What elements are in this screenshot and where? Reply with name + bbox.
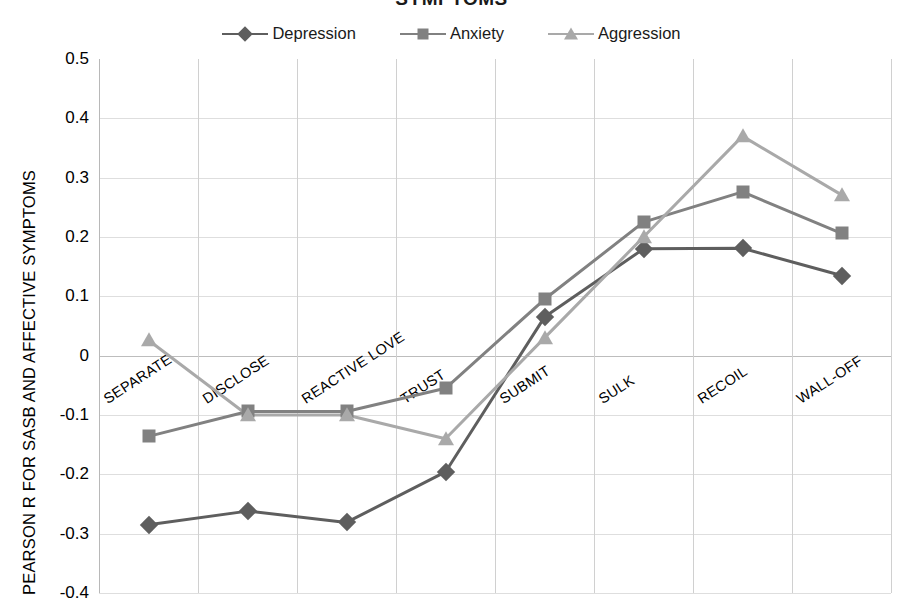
triangle-marker xyxy=(339,407,355,421)
series-line-anxiety xyxy=(149,192,842,436)
triangle-marker xyxy=(834,187,850,201)
square-marker xyxy=(439,382,452,395)
line-chart: SYMPTOMS DepressionAnxietyAggression PEA… xyxy=(0,0,903,616)
triangle-marker xyxy=(537,330,553,344)
triangle-marker xyxy=(438,431,454,445)
triangle-marker xyxy=(141,333,157,347)
square-marker xyxy=(637,216,650,229)
square-marker xyxy=(835,227,848,240)
triangle-marker xyxy=(735,128,751,142)
square-marker xyxy=(538,293,551,306)
square-marker xyxy=(736,185,749,198)
plot-area: 0.50.40.30.20.10-0.1-0.2-0.3-0.4SEPARATE… xyxy=(0,0,903,616)
series-lines-layer xyxy=(0,0,903,616)
triangle-marker xyxy=(636,229,652,243)
triangle-marker xyxy=(240,407,256,421)
square-marker xyxy=(142,430,155,443)
